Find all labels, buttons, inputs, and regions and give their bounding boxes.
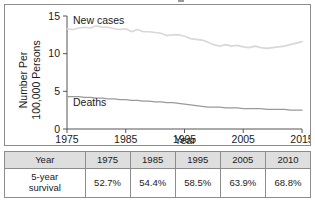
survival-table: Year 1975 1985 1995 2005 2010 5-year sur… <box>4 151 311 198</box>
y-tick-label: 5 <box>54 85 60 97</box>
table-cell-survival-1985: 54.4% <box>130 169 175 198</box>
figure-root: Number Per 100,000 Persons 051015 197519… <box>0 0 315 202</box>
line-chart: Number Per 100,000 Persons 051015 197519… <box>5 5 310 145</box>
table-header-cell-1975: 1975 <box>85 152 130 169</box>
table-header-row: Year 1975 1985 1995 2005 2010 <box>5 152 311 169</box>
table-row: 5-year survival 52.7% 54.4% 58.5% 63.9% … <box>5 169 311 198</box>
top-tick-artifact <box>178 0 184 2</box>
table-header-cell-1995: 1995 <box>175 152 220 169</box>
table-cell-survival-2010: 68.8% <box>265 169 310 198</box>
table-header-cell-1985: 1985 <box>130 152 175 169</box>
x-tick-label: 2005 <box>232 133 256 145</box>
y-tick-label: 15 <box>48 10 60 22</box>
table-cell-survival-1975: 52.7% <box>85 169 130 198</box>
y-tick-label: 10 <box>48 47 60 59</box>
y-axis-ticks: 051015 <box>48 10 67 135</box>
y-axis-label-line2: 100,000 Persons <box>30 40 42 119</box>
y-axis-label-line1: Number Per <box>17 51 29 108</box>
table-cell-survival-2005: 63.9% <box>220 169 265 198</box>
series-line-new-cases <box>67 26 302 49</box>
x-axis-label: Year <box>174 134 196 145</box>
x-tick-label: 1985 <box>114 133 138 145</box>
table-header-cell-2005: 2005 <box>220 152 265 169</box>
chart-panel: Number Per 100,000 Persons 051015 197519… <box>4 4 311 146</box>
table-header-cell-2010: 2010 <box>265 152 310 169</box>
annotation-new-cases: New cases <box>73 14 124 26</box>
x-tick-label: 1975 <box>55 133 79 145</box>
annotation-deaths: Deaths <box>73 96 106 108</box>
table-row-label-line2: survival <box>5 183 85 194</box>
x-tick-label: 2015 <box>290 133 310 145</box>
table-row-label: 5-year survival <box>5 169 86 198</box>
table-header-cell-year: Year <box>5 152 86 169</box>
table-cell-survival-1995: 58.5% <box>175 169 220 198</box>
